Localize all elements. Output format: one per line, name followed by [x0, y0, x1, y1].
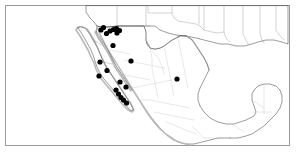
occurrence-dot [117, 79, 122, 84]
occurrence-dot [123, 84, 128, 89]
occurrence-dot [174, 76, 179, 81]
occurrence-dot [97, 59, 102, 64]
occurrence-dot [124, 100, 129, 105]
occurrence-dot [96, 73, 101, 78]
distribution-map-figure [0, 0, 296, 154]
occurrence-dot [114, 30, 119, 35]
occurrence-dot [128, 58, 133, 63]
map-canvas [0, 0, 296, 154]
occurrence-dot [101, 25, 106, 30]
occurrence-dot [104, 68, 109, 73]
occurrence-dot [110, 43, 115, 48]
